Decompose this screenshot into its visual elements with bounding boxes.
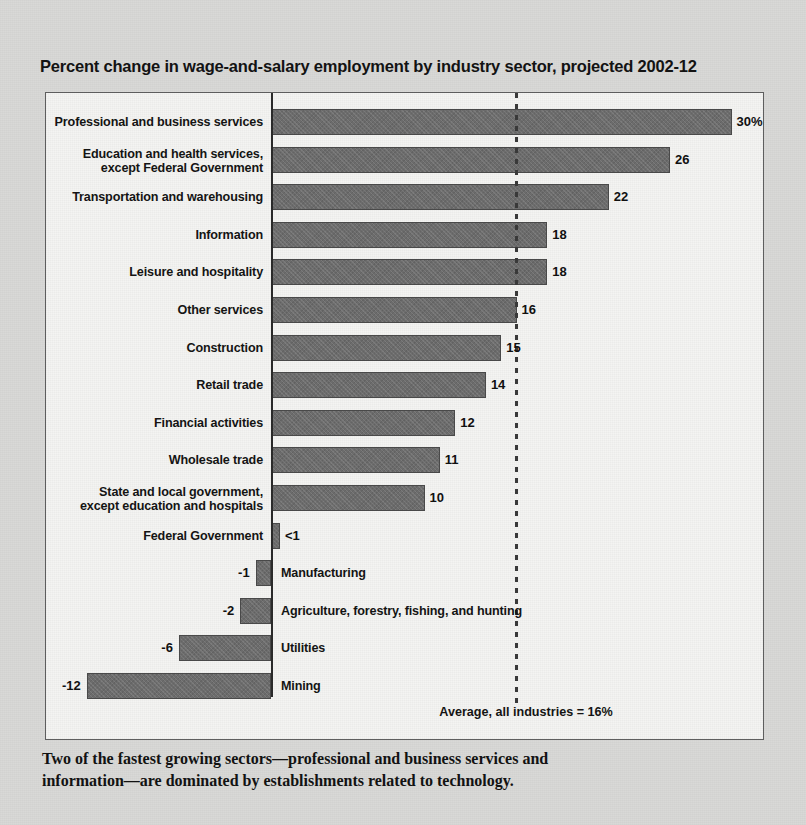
- bar-value-label: 14: [491, 372, 505, 398]
- category-label: Leisure and hospitality: [46, 265, 263, 279]
- average-annotation-label: Average, all industries = 16%: [376, 705, 676, 719]
- category-label: Education and health services, except Fe…: [46, 147, 263, 175]
- bar-row: Financial activities12: [46, 410, 763, 436]
- bar-value-label: -12: [46, 673, 81, 699]
- bar-value-label: 11: [445, 447, 459, 473]
- category-label: Financial activities: [46, 416, 263, 430]
- category-label: Manufacturing: [281, 560, 366, 586]
- bar-value-label: -1: [46, 560, 250, 586]
- bar-row: Information18: [46, 222, 763, 248]
- bar: [271, 410, 455, 436]
- bar-row: Utilities-6: [46, 635, 763, 661]
- category-label: Professional and business services: [46, 115, 263, 129]
- bar-value-label: -6: [46, 635, 173, 661]
- bar: [271, 109, 732, 135]
- bar-value-label: 12: [460, 410, 474, 436]
- bar-value-label: 16: [522, 297, 536, 323]
- category-label: State and local government, except educa…: [46, 485, 263, 513]
- category-label: Construction: [46, 341, 263, 355]
- bar-value-label: 30%: [737, 109, 763, 135]
- bar-row: Professional and business services30%: [46, 109, 763, 135]
- bar: [271, 184, 609, 210]
- bar: [271, 372, 486, 398]
- bar-row: Wholesale trade11: [46, 447, 763, 473]
- bar: [271, 297, 517, 323]
- bar-row: Transportation and warehousing22: [46, 184, 763, 210]
- bar-value-label: 18: [552, 259, 566, 285]
- category-label: Retail trade: [46, 378, 263, 392]
- bar: [240, 598, 271, 624]
- bar: [179, 635, 271, 661]
- bar-row: Education and health services, except Fe…: [46, 147, 763, 173]
- category-label: Other services: [46, 303, 263, 317]
- figure-caption: Two of the fastest growing sectors—profe…: [42, 748, 762, 792]
- bar-row: Construction15: [46, 335, 763, 361]
- bar: [256, 560, 271, 586]
- bar-row: State and local government, except educa…: [46, 485, 763, 511]
- bar-value-label: 15: [506, 335, 520, 361]
- bar-value-label: 26: [675, 147, 689, 173]
- caption-line-2: information—are dominated by establishme…: [42, 770, 762, 792]
- bar-value-label: 18: [552, 222, 566, 248]
- bar: [271, 259, 547, 285]
- bar: [271, 485, 425, 511]
- bar-row: Leisure and hospitality18: [46, 259, 763, 285]
- bar: [271, 222, 547, 248]
- zero-axis-line: [271, 93, 273, 697]
- category-label: Transportation and warehousing: [46, 190, 263, 204]
- bar: [87, 673, 271, 699]
- caption-line-1: Two of the fastest growing sectors—profe…: [42, 748, 762, 770]
- bar-value-label: <1: [285, 523, 300, 549]
- bar-value-label: 10: [430, 485, 444, 511]
- category-label: Federal Government: [46, 529, 263, 543]
- bar-row: Other services16: [46, 297, 763, 323]
- bar-row: Agriculture, forestry, fishing, and hunt…: [46, 598, 763, 624]
- bar-value-label: -2: [46, 598, 234, 624]
- category-label: Mining: [281, 673, 321, 699]
- category-label: Information: [46, 228, 263, 242]
- bar-value-label: 22: [614, 184, 628, 210]
- page-title: Percent change in wage-and-salary employ…: [40, 57, 770, 76]
- bar-row: Mining-12: [46, 673, 763, 699]
- bar-row: Federal Government<1: [46, 523, 763, 549]
- chart-plot-area: Professional and business services30%Edu…: [45, 92, 764, 740]
- category-label: Utilities: [281, 635, 325, 661]
- category-label: Wholesale trade: [46, 453, 263, 467]
- figure-container: Percent change in wage-and-salary employ…: [0, 0, 806, 825]
- bar-row: Manufacturing-1: [46, 560, 763, 586]
- bar: [271, 147, 670, 173]
- category-label: Agriculture, forestry, fishing, and hunt…: [281, 598, 522, 624]
- bar: [271, 335, 501, 361]
- bar: [271, 447, 440, 473]
- bar-row: Retail trade14: [46, 372, 763, 398]
